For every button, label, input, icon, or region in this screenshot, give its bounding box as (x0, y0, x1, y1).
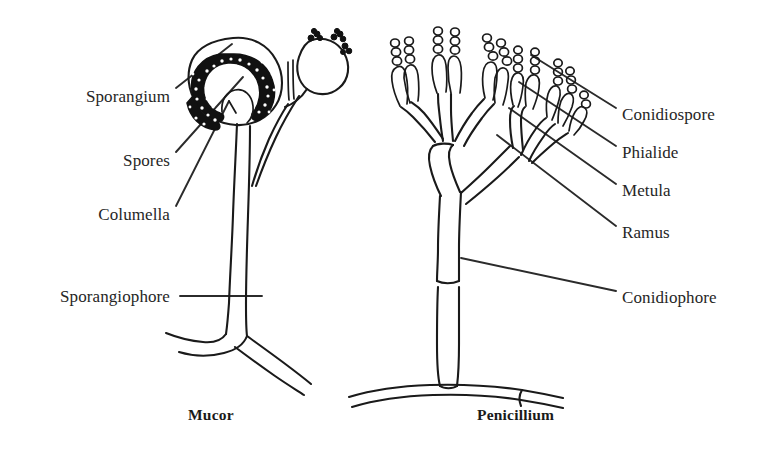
conidiospore (554, 59, 562, 67)
leader-conidiophore (461, 258, 616, 291)
ramus-left-a (429, 146, 441, 196)
label-sporangiophore: Sporangiophore (16, 288, 170, 305)
phialide-c (432, 55, 447, 93)
penicillium-basal-septum (520, 390, 522, 406)
label-spores: Spores (40, 152, 170, 169)
conidiospore (404, 46, 413, 54)
ramus-septum-left (433, 144, 453, 146)
conidiospore (450, 37, 459, 45)
conidiospore (392, 57, 401, 65)
label-metula: Metula (622, 182, 671, 199)
conidiophore-right-wall-2 (457, 287, 459, 386)
caption-penicillium: Penicillium (477, 406, 554, 424)
phialide-g (511, 73, 524, 107)
conidiospore (531, 66, 540, 74)
young-sporangium-wall (297, 39, 348, 94)
conidiospore (497, 39, 506, 47)
conidiospore (514, 64, 523, 72)
conidiospore (451, 28, 460, 36)
conidiophore-foot (440, 386, 457, 388)
conidiophore-right-wall (459, 192, 461, 281)
conidiospore (514, 55, 523, 63)
conidiospore (531, 48, 539, 56)
sporangiophore-right-wall (246, 126, 250, 336)
conidiospore (582, 100, 591, 108)
phialide-b (404, 65, 419, 103)
mucor-branch-lower (179, 336, 247, 356)
metula-r1b (521, 107, 525, 150)
leader-phialide (519, 82, 616, 146)
conidiospore (502, 57, 511, 65)
figure-canvas: Sporangium Spores Columella Sporangiopho… (0, 0, 771, 458)
conidiospore (483, 34, 492, 42)
young-sporangiophore-inner2 (293, 60, 294, 99)
conidiospore (499, 48, 508, 56)
mucor-basal-hypha-a (247, 336, 311, 384)
mucor-branch-upper (166, 333, 226, 342)
metula-r2b (529, 124, 555, 161)
metula-l2b (451, 94, 453, 141)
conidiospore (433, 36, 442, 44)
conidiophore-left-wall-2 (437, 287, 440, 386)
columella-pointer (229, 101, 236, 113)
label-sporangium: Sporangium (40, 88, 170, 105)
label-conidiospore: Conidiospore (622, 106, 715, 123)
conidiospore (568, 85, 577, 93)
phialide-d (448, 56, 461, 93)
mucor-structure (166, 28, 352, 395)
conidiophore-left-wall (437, 196, 440, 281)
conidiospore (514, 46, 522, 54)
label-conidiophore: Conidiophore (622, 289, 717, 306)
leader-ramus (497, 135, 616, 226)
conidiospore-chains-left (391, 27, 512, 65)
sporangiophore-left-wall (226, 124, 237, 334)
conidiospore (450, 46, 459, 54)
conidiospore (391, 39, 400, 47)
conidiophore-septum-1 (437, 281, 459, 283)
metula-l3b (464, 104, 494, 146)
conidiospore (434, 27, 443, 35)
metula-r1 (510, 106, 514, 148)
conidiospore (433, 45, 442, 53)
conidiospore (488, 52, 497, 60)
label-columella: Columella (40, 206, 170, 223)
label-phialide: Phialide (622, 144, 679, 161)
young-sporangiophore-inner (288, 62, 289, 100)
penicillium-structure (349, 27, 590, 408)
conidiospore (566, 67, 574, 75)
conidiospore (405, 55, 414, 63)
conidiospore (405, 37, 414, 45)
metula-r2 (521, 118, 546, 155)
conidiospore (554, 77, 563, 85)
metula-l1 (401, 107, 435, 142)
ramus-left-b (449, 145, 460, 192)
conidiospore (580, 91, 588, 99)
conidiospore (484, 43, 493, 51)
ramus-right-a (461, 146, 510, 193)
conidiospore (391, 48, 400, 56)
label-ramus: Ramus (622, 224, 670, 241)
caption-mucor: Mucor (188, 406, 234, 424)
